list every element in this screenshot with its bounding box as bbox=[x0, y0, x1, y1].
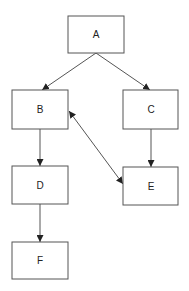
node-c: C bbox=[123, 90, 178, 129]
flow-diagram: A B C D E F bbox=[0, 0, 189, 291]
edge-a-to-c bbox=[96, 53, 150, 90]
node-d: D bbox=[12, 166, 68, 204]
node-e: E bbox=[123, 167, 178, 205]
node-f-label: F bbox=[37, 255, 43, 266]
edges bbox=[40, 53, 151, 242]
node-b: B bbox=[12, 90, 68, 129]
node-e-label: E bbox=[148, 181, 155, 192]
node-d-label: D bbox=[36, 180, 43, 191]
node-a-label: A bbox=[93, 29, 100, 40]
node-f: F bbox=[12, 242, 68, 279]
edge-b-e-bidirectional bbox=[69, 111, 123, 184]
node-c-label: C bbox=[147, 104, 154, 115]
edge-a-to-b bbox=[42, 53, 96, 90]
node-b-label: B bbox=[37, 104, 44, 115]
node-a: A bbox=[68, 16, 124, 53]
